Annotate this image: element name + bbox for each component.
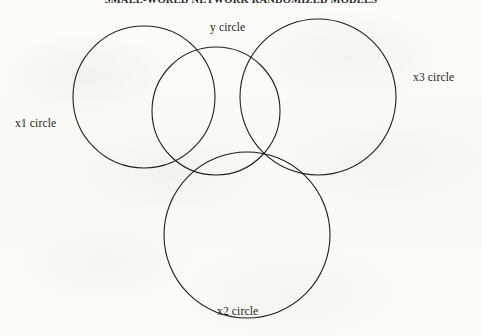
circle-label-x1: x1 circle — [15, 117, 56, 129]
circle-x3 — [240, 19, 396, 175]
circle-y — [152, 47, 280, 175]
circle-x2 — [164, 152, 330, 318]
venn-diagram-canvas — [0, 0, 482, 336]
circle-label-x3: x3 circle — [413, 71, 454, 83]
circle-label-x2: x2 circle — [217, 305, 258, 317]
diagram-page: SMALL-WORLD NETWORK RANDOMIZED MODELS y … — [0, 0, 482, 336]
circle-x1 — [73, 26, 215, 168]
circle-label-y: y circle — [210, 21, 245, 33]
circle-group — [73, 19, 396, 318]
